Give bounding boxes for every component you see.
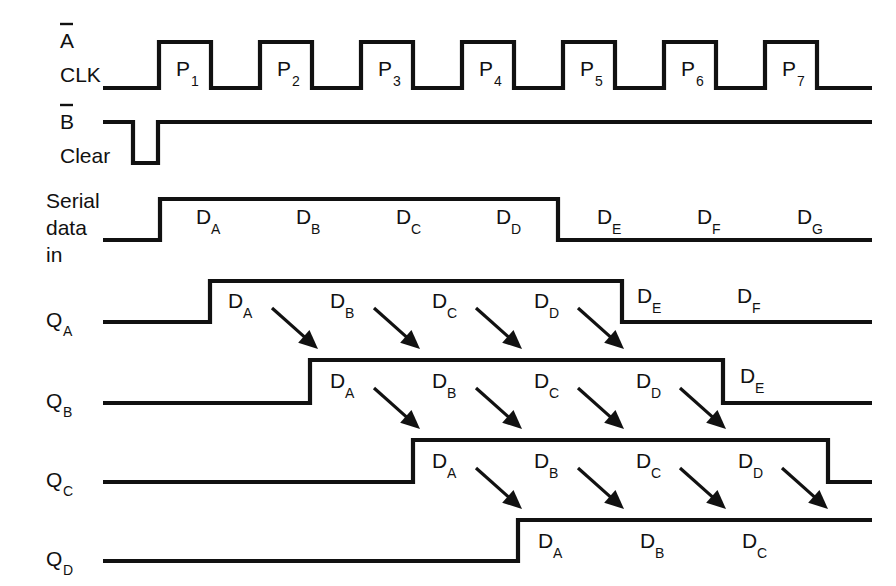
clock-pulse-sub: 1 xyxy=(191,73,199,89)
data-label-sub-qb: B xyxy=(447,385,456,401)
clock-pulse-label: P xyxy=(681,57,695,80)
data-label-serial-data-in: D xyxy=(296,205,311,228)
clock-pulse-sub: 6 xyxy=(696,73,704,89)
data-label-qa: D xyxy=(432,289,447,312)
data-label-serial-data-in: D xyxy=(797,205,812,228)
row-label-serial: in xyxy=(46,243,62,266)
data-label-sub-qa: D xyxy=(549,305,559,321)
row-label-serial: data xyxy=(46,216,87,239)
row-label-qa: Q xyxy=(46,308,62,331)
clock-pulse-label: P xyxy=(479,57,493,80)
data-label-serial-data-in: D xyxy=(196,205,211,228)
clock-pulse-sub: 4 xyxy=(494,73,502,89)
data-label-sub-qa: A xyxy=(243,305,253,321)
row-label-sub-qb: B xyxy=(63,404,72,420)
data-label-sub-serial-data-in: B xyxy=(311,221,320,237)
data-label-qa: D xyxy=(228,289,243,312)
data-label-qc: D xyxy=(738,449,753,472)
data-label-sub-serial-data-in: A xyxy=(211,221,221,237)
data-label-sub-serial-data-in: F xyxy=(712,221,721,237)
row-label-sub-qd: D xyxy=(63,562,73,578)
clock-pulse-label: P xyxy=(580,57,594,80)
row-label-clear: B xyxy=(60,110,74,133)
row-label-qc: Q xyxy=(46,468,62,491)
data-label-qb: D xyxy=(534,369,549,392)
data-label-sub-qb: E xyxy=(755,380,764,396)
data-label-sub-qd: C xyxy=(757,545,767,561)
data-label-serial-data-in: D xyxy=(597,205,612,228)
row-label-clk: A xyxy=(60,29,74,52)
clock-pulse-sub: 2 xyxy=(292,73,300,89)
data-label-sub-qb: C xyxy=(549,385,559,401)
data-label-sub-qc: C xyxy=(651,465,661,481)
data-label-sub-qb: A xyxy=(345,385,355,401)
data-label-qd: D xyxy=(742,529,757,552)
data-label-qc: D xyxy=(636,449,651,472)
data-label-qc: D xyxy=(534,449,549,472)
clock-pulse-sub: 3 xyxy=(393,73,401,89)
row-label-qb: Q xyxy=(46,389,62,412)
data-label-sub-qc: D xyxy=(753,465,763,481)
data-label-sub-qb: D xyxy=(651,385,661,401)
data-label-sub-qc: B xyxy=(549,465,558,481)
data-label-qc: D xyxy=(432,449,447,472)
data-label-qb: D xyxy=(740,364,755,387)
data-label-serial-data-in: D xyxy=(396,205,411,228)
row-label-clk: CLK xyxy=(60,63,101,86)
data-label-qb: D xyxy=(636,369,651,392)
timing-diagram: ACLKBClearSerialdatainQAQBQCQD P1P2P3P4P… xyxy=(0,0,896,586)
data-label-sub-qc: A xyxy=(447,465,457,481)
data-label-qa: D xyxy=(534,289,549,312)
data-label-qb: D xyxy=(330,369,345,392)
data-label-sub-serial-data-in: C xyxy=(411,221,421,237)
clock-pulse-label: P xyxy=(176,57,190,80)
data-label-serial-data-in: D xyxy=(697,205,712,228)
data-label-qd: D xyxy=(640,529,655,552)
data-label-qb: D xyxy=(432,369,447,392)
row-label-clear: Clear xyxy=(60,144,110,167)
data-label-sub-serial-data-in: E xyxy=(612,221,621,237)
data-label-sub-qa: E xyxy=(652,300,661,316)
clock-pulse-sub: 7 xyxy=(797,73,805,89)
row-label-sub-qa: A xyxy=(63,323,73,339)
clock-pulse-label: P xyxy=(277,57,291,80)
clock-pulse-label: P xyxy=(782,57,796,80)
data-label-qa: D xyxy=(330,289,345,312)
data-label-qa: D xyxy=(637,284,652,307)
data-label-sub-qa: B xyxy=(345,305,354,321)
data-label-sub-qa: F xyxy=(752,300,761,316)
data-label-sub-serial-data-in: G xyxy=(812,221,823,237)
clock-pulse-sub: 5 xyxy=(595,73,603,89)
clock-pulse-label: P xyxy=(378,57,392,80)
data-label-sub-serial-data-in: D xyxy=(511,221,521,237)
data-label-qd: D xyxy=(538,529,553,552)
data-label-serial-data-in: D xyxy=(496,205,511,228)
data-label-sub-qa: C xyxy=(447,305,457,321)
data-label-sub-qd: A xyxy=(553,545,563,561)
row-label-sub-qc: C xyxy=(63,483,73,499)
data-label-qa: D xyxy=(737,284,752,307)
row-label-serial: Serial xyxy=(46,189,100,212)
row-label-qd: Q xyxy=(46,547,62,570)
data-label-sub-qd: B xyxy=(655,545,664,561)
